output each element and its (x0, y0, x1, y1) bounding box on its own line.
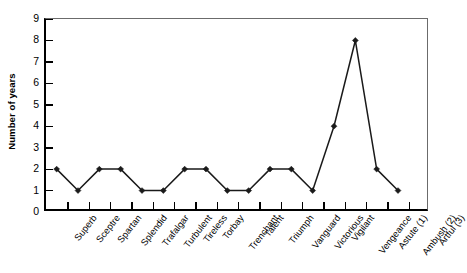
y-tick-label: 6 (33, 76, 39, 88)
y-tick-label: 1 (33, 184, 39, 196)
series-line (57, 40, 398, 190)
y-tick-label: 7 (33, 55, 39, 67)
y-tick-label: 0 (33, 205, 39, 217)
y-tick-label: 4 (33, 119, 39, 131)
y-tick-label: 5 (33, 98, 39, 110)
y-axis-title-text: Number of years (6, 73, 17, 149)
y-axis-title: Number of years (0, 0, 22, 222)
plot-inner: 0123456789 (46, 19, 427, 209)
data-point-marker (352, 38, 358, 44)
y-tick-label: 8 (33, 33, 39, 45)
y-tick-label: 9 (33, 12, 39, 24)
x-axis-labels: SuperbSceptreSpartanSplendidTrafalgarTur… (44, 213, 428, 273)
plot-area: 0123456789 (44, 18, 428, 211)
y-tick-label: 3 (33, 141, 39, 153)
data-series-layer (46, 19, 430, 212)
data-point-marker (331, 123, 337, 129)
y-tick-label: 2 (33, 162, 39, 174)
